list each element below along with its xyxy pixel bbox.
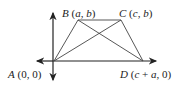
segment-cd bbox=[121, 20, 143, 61]
label-d: D (c + a, 0) bbox=[119, 68, 171, 81]
trapezoid-edges bbox=[54, 20, 143, 61]
trapezoid-diagram: B (a, b) C (c, b) A (0, 0) D (c + a, 0) bbox=[0, 0, 182, 89]
label-c: C (c, b) bbox=[119, 7, 153, 20]
label-a: A (0, 0) bbox=[7, 68, 42, 81]
label-b: B (a, b) bbox=[62, 7, 96, 20]
segment-ab bbox=[54, 20, 78, 61]
